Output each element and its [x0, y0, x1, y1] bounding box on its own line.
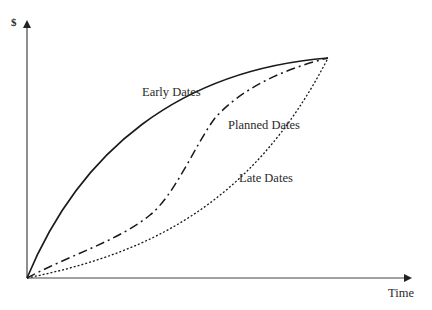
early-dates-label: Early Dates	[142, 85, 201, 99]
s-curve-chart: $ Time Early Dates Planned Dates Late Da…	[0, 0, 432, 310]
late-dates-label: Late Dates	[239, 171, 293, 185]
planned-dates-label: Planned Dates	[228, 118, 300, 132]
y-axis-label: $	[11, 16, 17, 28]
x-axis-label: Time	[388, 286, 414, 300]
